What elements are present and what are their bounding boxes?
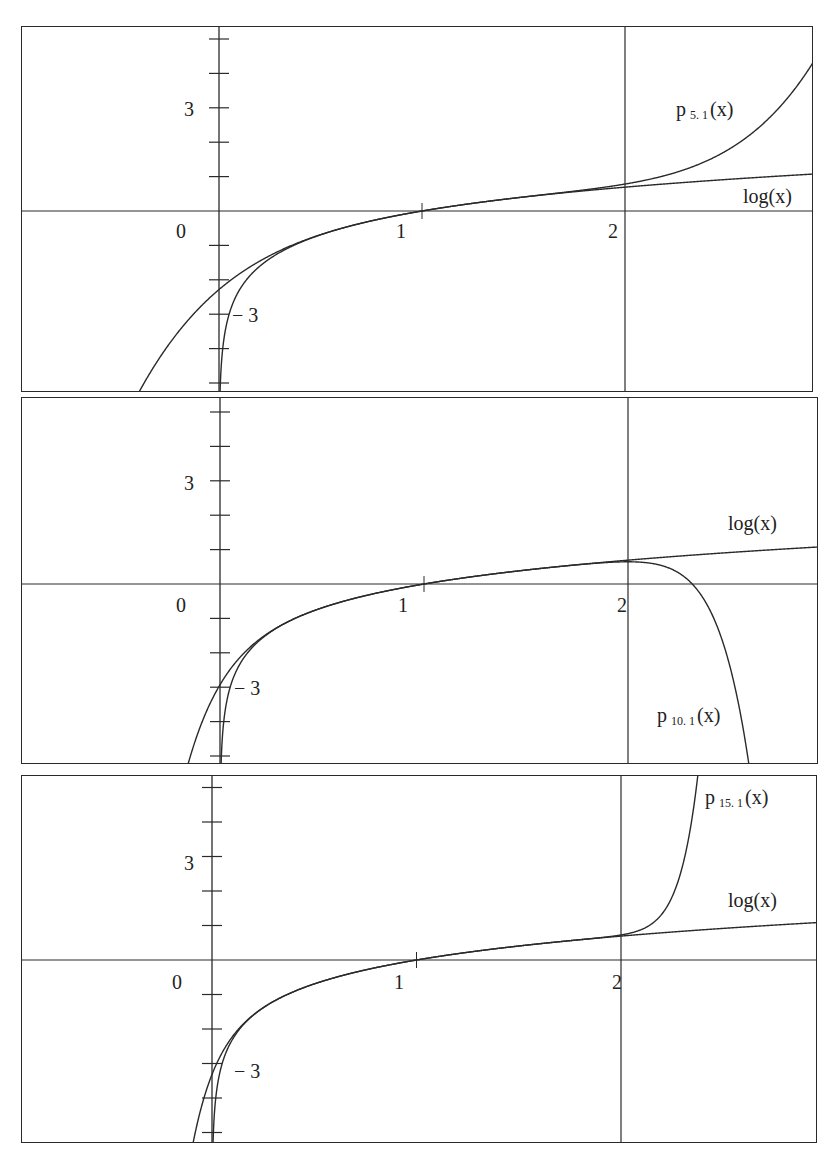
x-tick-label: 1 [394, 972, 404, 992]
x-tick-label: 2 [612, 972, 622, 992]
curve-label-argument: (x) [745, 786, 768, 808]
y-tick-label: − 3 [234, 1061, 260, 1081]
panel-3-plot-area [0, 0, 835, 1157]
x-tick-label: 0 [172, 972, 182, 992]
polynomial-curve-label: p15. 1(x) [705, 786, 768, 814]
curve-label-subscript: 15. 1 [719, 796, 743, 810]
y-tick-label: 3 [184, 853, 194, 873]
log-curve [212, 923, 817, 1157]
log-curve-label: log(x) [728, 889, 777, 911]
curve-label-base: log(x) [728, 889, 777, 911]
taylor-polynomial-curve-degree-15 [21, 0, 817, 1157]
curve-label-base: p [705, 786, 715, 808]
